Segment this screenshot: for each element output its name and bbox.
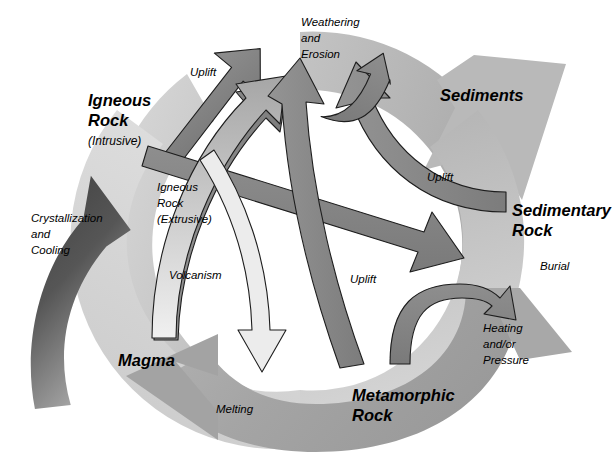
process-label-crystallization-3: Cooling (31, 244, 71, 256)
process-label-crystallization-1: Crystallization (31, 212, 103, 224)
stage-label-sedimentary-rock: Sedimentary (512, 201, 612, 219)
process-label-melting: Melting (216, 403, 254, 415)
stage-sub-igneous-intrusive: (Intrusive) (88, 134, 141, 148)
stage-label-sedimentary-rock-2: Rock (512, 221, 553, 239)
process-label-crystallization-2: and (31, 228, 51, 240)
rock-cycle-diagram: Igneous Rock (Intrusive) Sediments Sedim… (0, 0, 612, 473)
stage-label-igneous-rock: Igneous (88, 91, 151, 109)
process-label-heating-2: and/or (483, 338, 517, 350)
process-label-extrusive-3: (Extrusive) (157, 213, 212, 225)
process-label-heating-3: Pressure (483, 354, 529, 366)
process-label-uplift-top-left: Uplift (190, 66, 217, 78)
stage-label-igneous-rock-2: Rock (88, 111, 129, 129)
stage-label-sediments: Sediments (440, 86, 523, 104)
stage-label-magma: Magma (118, 351, 175, 369)
process-label-heating-1: Heating (483, 322, 523, 334)
process-label-weathering-3: Erosion (301, 48, 340, 60)
process-label-uplift-right: Uplift (427, 171, 454, 183)
process-label-extrusive-1: Igneous (157, 181, 198, 193)
process-label-burial: Burial (540, 260, 570, 272)
diagram-canvas: Igneous Rock (Intrusive) Sediments Sedim… (0, 0, 612, 473)
process-label-extrusive-2: Rock (157, 197, 184, 209)
process-label-uplift-center: Uplift (350, 273, 377, 285)
process-label-volcanism: Volcanism (169, 269, 222, 281)
stage-label-metamorphic-rock: Metamorphic (352, 386, 455, 404)
stage-label-metamorphic-rock-2: Rock (352, 406, 393, 424)
process-label-weathering-2: and (301, 32, 321, 44)
process-label-weathering-1: Weathering (301, 16, 360, 28)
